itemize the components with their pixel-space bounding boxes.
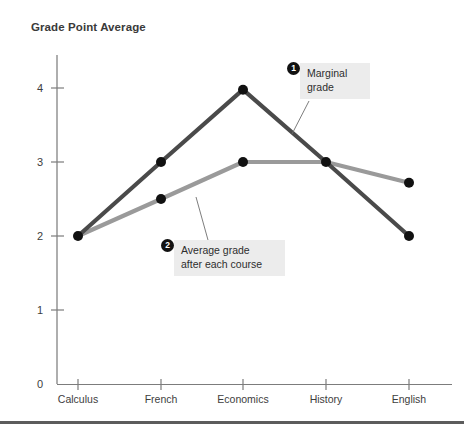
y-tick-label-1: 1 [37,304,43,316]
callout-badge-2: 2 [161,239,174,252]
callout-average-grade: Average grade after each course [174,240,285,276]
y-tick-label-0: 0 [37,378,43,390]
y-tick-label-2: 2 [37,230,43,242]
x-tick-label-history: History [310,393,343,405]
callout-marginal-grade: Marginal grade [300,63,370,99]
callout-leader-line-1 [292,101,309,134]
y-tick-label-4: 4 [37,82,43,94]
x-tick-label-english: English [392,393,427,405]
callout-leader-line-2 [196,197,208,240]
line-chart-plot: 4 3 2 1 0 Calculus French Economics Hist… [0,0,464,428]
series-line-average-grade [78,162,409,236]
callout-badge-1: 1 [287,62,300,75]
chart-container: Grade Point Average 4 3 2 1 0 Calculus [0,0,464,428]
x-tick-label-economics: Economics [217,393,268,405]
x-tick-label-calculus: Calculus [58,393,98,405]
y-tick-label-3: 3 [37,156,43,168]
x-tick-label-french: French [145,393,178,405]
bottom-divider [0,421,464,424]
